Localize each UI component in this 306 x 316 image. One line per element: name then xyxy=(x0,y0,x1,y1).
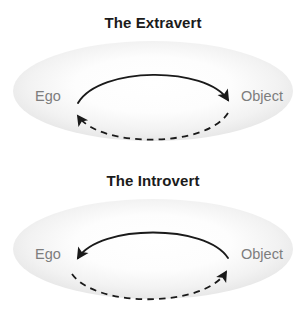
node-label-object-extravert: Object xyxy=(228,88,296,104)
node-label-ego-extravert: Ego xyxy=(20,88,76,104)
node-label-object-introvert: Object xyxy=(228,246,296,262)
diagram-canvas: The Extravert xyxy=(0,0,306,316)
panel-introvert: The Introvert xyxy=(0,158,306,316)
panel-extravert: The Extravert xyxy=(0,0,306,158)
node-label-ego-introvert: Ego xyxy=(20,246,76,262)
panel-title-extravert: The Extravert xyxy=(0,14,306,32)
panel-title-introvert: The Introvert xyxy=(0,172,306,190)
